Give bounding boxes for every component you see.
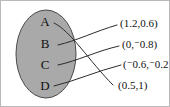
domain-element-b: B — [41, 36, 50, 51]
range-element-p4: (0.5,1) — [118, 79, 148, 92]
diagram-canvas: A B C D (1.2,0.6) (0,⁻0.8) (⁻0.6,⁻0.2) (… — [1, 1, 170, 107]
mapping-diagram-figure: A B C D (1.2,0.6) (0,⁻0.8) (⁻0.6,⁻0.2) (… — [0, 0, 170, 107]
range-element-p3: (⁻0.6,⁻0.2) — [123, 58, 170, 71]
range-element-p1: (1.2,0.6) — [120, 17, 158, 30]
domain-element-a: A — [40, 14, 50, 29]
domain-element-d: D — [40, 78, 49, 93]
domain-element-c: C — [41, 57, 50, 72]
range-element-p2: (0,⁻0.8) — [122, 38, 157, 51]
